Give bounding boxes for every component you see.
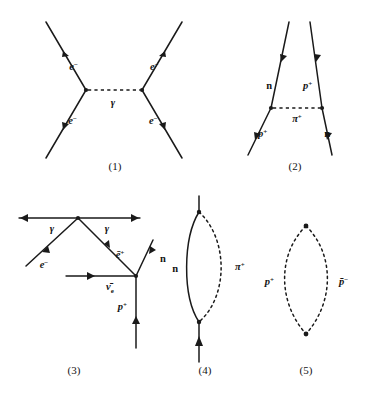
diagram-5-caption: (5) xyxy=(300,364,313,377)
diagram-3-photon-left-arrow xyxy=(20,214,28,222)
diagram-4-vertex-bottom xyxy=(197,320,201,324)
diagram-5-label-antiproton: p̄− xyxy=(338,276,348,287)
diagram-3-label-proton: p+ xyxy=(117,301,127,312)
diagram-2-label-lower-left: p+ xyxy=(257,128,267,139)
diagram-2-vertex-left xyxy=(269,106,273,110)
diagram-4-vertex-top xyxy=(197,210,201,214)
diagram-4-neutron-branch xyxy=(187,212,199,322)
diagram-1-group: e− e− e− e− γ (1) xyxy=(46,22,182,173)
diagram-3-label-electron: e− xyxy=(40,259,49,270)
diagram-3-label-positron: ē+ xyxy=(116,249,125,260)
figure-canvas: e− e− e− e− γ (1) xyxy=(0,0,365,393)
diagram-2-label-lower-right: n xyxy=(324,128,330,139)
diagram-3-antineutrino-arrow xyxy=(87,272,95,280)
diagram-5-vertex-top xyxy=(304,224,309,229)
diagram-1-label-lower-left: e− xyxy=(68,115,77,126)
diagram-1-label-photon: γ xyxy=(111,97,116,108)
diagram-3-vertex-right xyxy=(134,274,138,278)
diagram-3-neutron-arrow xyxy=(149,246,156,254)
diagram-1-label-upper-left: e− xyxy=(69,61,78,72)
diagram-2-label-upper-left: n xyxy=(266,80,272,91)
diagram-1-upper-left-arrow xyxy=(62,51,69,57)
diagram-1-label-lower-right: e− xyxy=(149,115,158,126)
diagram-3-neutron-line xyxy=(136,240,153,276)
diagram-3-group: γ γ e− ē+ ν̄e n xyxy=(19,214,166,377)
diagram-1-lower-right-arrow xyxy=(159,122,166,130)
diagram-5-antiproton-branch xyxy=(306,226,327,334)
diagram-3-label-photon-left: γ xyxy=(50,223,55,234)
diagram-3-proton-arrow xyxy=(132,316,140,324)
diagram-1-label-upper-right: e− xyxy=(150,61,159,72)
diagram-4-label-neutron: n xyxy=(172,263,178,274)
diagram-3-caption: (3) xyxy=(68,364,81,377)
diagram-4-caption: (4) xyxy=(199,364,212,377)
feynman-diagram-sheet: e− e− e− e− γ (1) xyxy=(0,0,365,393)
diagram-1-caption: (1) xyxy=(109,160,122,173)
diagram-4-label-pion: π+ xyxy=(235,261,245,272)
diagram-5-group: p+ p̄− (5) xyxy=(264,224,349,377)
diagram-4-pion-branch xyxy=(199,212,221,322)
diagram-2-label-upper-right: p+ xyxy=(302,80,312,91)
diagram-1-vertex-left xyxy=(84,88,88,92)
diagram-3-label-photon-right: γ xyxy=(105,223,110,234)
diagram-2-left-upper-arrow xyxy=(280,54,287,62)
diagram-5-proton-branch xyxy=(285,226,306,334)
diagram-5-label-proton: p+ xyxy=(264,276,274,287)
diagram-2-vertex-right xyxy=(320,106,324,110)
diagram-1-upper-right-arrow xyxy=(159,51,166,57)
diagram-4-lower-arrow xyxy=(195,336,203,346)
diagram-3-label-neutron: n xyxy=(160,253,166,264)
diagram-2-caption: (2) xyxy=(289,160,302,173)
diagram-3-photon-right-arrow xyxy=(131,214,139,222)
diagram-2-right-upper-line xyxy=(310,22,322,108)
diagram-5-vertex-bottom xyxy=(304,332,309,337)
diagram-2-label-pion: π+ xyxy=(292,113,302,124)
diagram-2-group: n p+ p+ n π+ (2) xyxy=(248,22,332,173)
diagram-1-vertex-right xyxy=(140,88,144,92)
diagram-2-left-upper-line xyxy=(271,22,289,108)
diagram-4-group: n π+ (4) xyxy=(172,196,245,377)
diagram-3-label-antineutrino: ν̄e xyxy=(106,281,114,295)
